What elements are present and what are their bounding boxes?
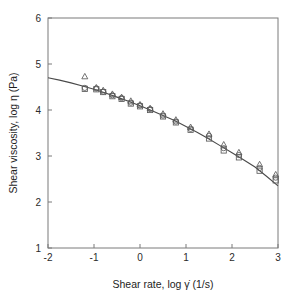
x-tick-label: 1 <box>183 252 189 263</box>
x-axis-tick-labels: -2-10123 <box>44 252 282 263</box>
x-axis-ticks <box>48 244 278 248</box>
shear-viscosity-plot: -2-10123 123456 Shear rate, log γ̇ (1/s)… <box>0 0 290 294</box>
x-tick-label: 3 <box>275 252 281 263</box>
x-tick-label: 2 <box>229 252 235 263</box>
chart-figure: -2-10123 123456 Shear rate, log γ̇ (1/s)… <box>0 0 290 294</box>
x-axis-title: Shear rate, log γ̇ (1/s) <box>113 278 214 290</box>
y-tick-label: 5 <box>35 59 41 70</box>
y-axis-tick-labels: 123456 <box>35 13 41 254</box>
y-axis-title: Shear viscosity, log η (Pa) <box>7 72 19 193</box>
carreau-fit-curve <box>48 78 278 186</box>
fit-curve <box>48 78 278 186</box>
x-tick-label: -2 <box>44 252 53 263</box>
x-tick-label: -1 <box>90 252 99 263</box>
y-tick-label: 1 <box>35 243 41 254</box>
plot-frame <box>48 18 278 248</box>
data-markers <box>82 73 279 183</box>
axis-frame <box>48 18 278 248</box>
y-axis-ticks <box>48 18 52 248</box>
x-tick-label: 0 <box>137 252 143 263</box>
y-tick-label: 2 <box>35 197 41 208</box>
y-tick-label: 6 <box>35 13 41 24</box>
y-tick-label: 3 <box>35 151 41 162</box>
y-tick-label: 4 <box>35 105 41 116</box>
data-point-triangle <box>82 73 88 78</box>
